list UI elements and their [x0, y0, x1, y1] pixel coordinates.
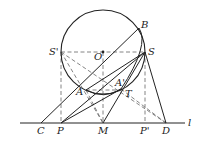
label-a-prime: A': [114, 77, 125, 88]
label-m: M: [97, 125, 109, 136]
label-o: O: [94, 51, 102, 62]
label-p: P: [56, 125, 64, 136]
label-p-prime: P': [139, 125, 149, 136]
geometry-diagram: B O S' S A A' T C P M P' D l: [0, 0, 204, 142]
label-s-prime: S': [49, 46, 59, 57]
label-b: B: [140, 19, 148, 30]
label-a: A: [75, 86, 83, 97]
label-d: D: [161, 125, 170, 136]
solid-lines: [20, 28, 185, 123]
label-s: S: [148, 46, 155, 57]
label-line-l: l: [188, 117, 191, 128]
label-c: C: [37, 125, 45, 136]
